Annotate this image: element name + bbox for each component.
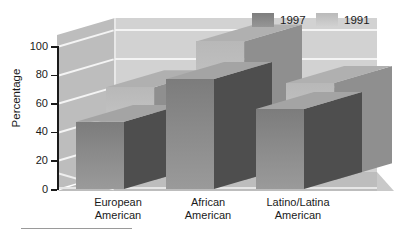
- y-tick-100: [51, 46, 57, 48]
- bar-1997-3-front-face: [256, 109, 304, 189]
- bar-1997-2-front-face: [166, 79, 214, 189]
- y-tick-0: [51, 189, 57, 191]
- bar-1997-1: [76, 122, 124, 189]
- bar-1997-2: [166, 79, 214, 189]
- category-label-3-line2: American: [243, 209, 353, 222]
- y-tick-80: [51, 75, 57, 77]
- legend-swatch-1997: [252, 13, 274, 27]
- bar-chart-figure: 100806040200 Percentage EuropeanAmerican…: [0, 0, 394, 236]
- category-label-3: Latino/LatinaAmerican: [243, 196, 353, 221]
- bar-1997-3: [256, 109, 304, 189]
- legend-swatch-1991: [316, 13, 338, 27]
- bar-1997-1-front-face: [76, 122, 124, 189]
- footer-rule: [21, 228, 132, 229]
- y-tick-40: [51, 132, 57, 134]
- y-tick-60: [51, 103, 57, 105]
- category-label-3-line1: Latino/Latina: [243, 196, 353, 209]
- legend-label-1991: 1991: [344, 13, 370, 27]
- bar-1997-3-side-face: [304, 92, 362, 189]
- y-axis-line: [57, 46, 59, 190]
- y-tick-label-0: 0: [8, 184, 48, 195]
- y-axis-title: Percentage: [10, 38, 22, 158]
- legend-label-1997: 1997: [280, 13, 306, 27]
- y-tick-20: [51, 160, 57, 162]
